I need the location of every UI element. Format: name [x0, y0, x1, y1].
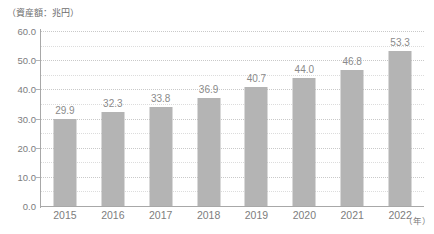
bar-value-label: 53.3: [390, 37, 409, 48]
bars-layer: 29.932.333.836.940.744.046.853.3: [41, 31, 424, 206]
y-axis-tick-label: 60.0: [2, 26, 36, 37]
x-axis-tick-label: 2017: [149, 209, 172, 221]
bar-value-label: 36.9: [199, 84, 218, 95]
y-axis-tick-label: 20.0: [2, 142, 36, 153]
bar-value-label: 32.3: [103, 98, 122, 109]
x-axis-tick-labels: 20152016201720182019202020212022: [41, 209, 424, 229]
y-axis-tick-label: 50.0: [2, 55, 36, 66]
y-axis-tick-mark: [36, 148, 40, 149]
y-axis-tick-label: 10.0: [2, 171, 36, 182]
bar-group: 46.8: [328, 31, 376, 206]
x-axis-tick-label: 2016: [101, 209, 124, 221]
bar: [197, 98, 220, 206]
y-axis-tick-label: 40.0: [2, 84, 36, 95]
bar-group: 29.9: [41, 31, 89, 206]
y-axis-tick-mark: [36, 60, 40, 61]
bar-group: 40.7: [233, 31, 281, 206]
bar: [389, 51, 412, 206]
bar-group: 53.3: [376, 31, 424, 206]
bar-value-label: 29.9: [55, 105, 74, 116]
bar-value-label: 46.8: [342, 56, 361, 67]
x-axis-tick-label: 2019: [245, 209, 268, 221]
bar-group: 32.3: [89, 31, 137, 206]
bar-chart: （資産額：兆円） 0.010.020.030.040.050.060.0 29.…: [0, 0, 434, 234]
bar-value-label: 33.8: [151, 93, 170, 104]
bar: [293, 78, 316, 206]
x-axis-tick-label: 2018: [197, 209, 220, 221]
y-axis-tick-mark: [36, 89, 40, 90]
bar-group: 36.9: [185, 31, 233, 206]
y-axis-tick-labels: 0.010.020.030.040.050.060.0: [0, 0, 36, 234]
x-axis-tick-label: 2020: [293, 209, 316, 221]
bar-group: 44.0: [280, 31, 328, 206]
bar-group: 33.8: [137, 31, 185, 206]
bar: [341, 70, 364, 207]
bar: [245, 87, 268, 206]
y-axis-tick-mark: [36, 119, 40, 120]
bar: [101, 112, 124, 206]
bar-value-label: 44.0: [295, 64, 314, 75]
bar: [53, 119, 76, 206]
bar-value-label: 40.7: [247, 73, 266, 84]
y-axis-tick-mark: [36, 177, 40, 178]
y-axis-tick-label: 30.0: [2, 113, 36, 124]
x-axis-tick-label: 2021: [341, 209, 364, 221]
x-axis-line: [40, 206, 424, 207]
bar: [149, 107, 172, 206]
x-axis-tick-label: 2015: [53, 209, 76, 221]
x-axis-unit-label: （年）: [404, 214, 431, 226]
y-axis-tick-label: 0.0: [2, 201, 36, 212]
